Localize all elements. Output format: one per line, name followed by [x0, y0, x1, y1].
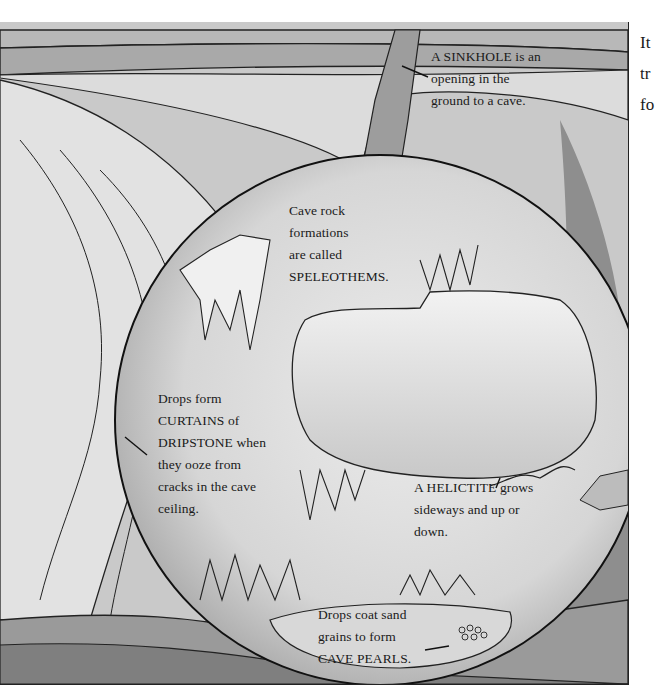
caption-line: are called [289, 244, 389, 266]
caption-line: Drops coat sand [318, 604, 411, 626]
cave-drawing [0, 22, 628, 684]
caption-line: sideways and up or [414, 499, 533, 521]
sinkhole-caption: A SINKHOLE is an opening in the ground t… [431, 46, 541, 112]
caption-line: A SINKHOLE is an [431, 46, 541, 68]
caption-line: Cave rock [289, 200, 389, 222]
caption-line: formations [289, 222, 389, 244]
speleothems-caption: Cave rock formations are called SPELEOTH… [289, 200, 389, 288]
body-text-column: It tr fo [640, 27, 666, 120]
caption-line: SPELEOTHEMS. [289, 266, 389, 288]
body-text-line: fo [640, 89, 666, 120]
caption-line: they ooze from [158, 454, 266, 476]
caption-line: opening in the [431, 68, 541, 90]
body-text-line: tr [640, 58, 666, 89]
body-text-line: It [640, 27, 666, 58]
cave-pearls-caption: Drops coat sand grains to form CAVE PEAR… [318, 604, 411, 670]
caption-line: CURTAINS of [158, 410, 266, 432]
caption-line: down. [414, 521, 533, 543]
caption-line: Drops form [158, 388, 266, 410]
caption-line: ceiling. [158, 498, 266, 520]
helictite-caption: A HELICTITE grows sideways and up or dow… [414, 477, 533, 543]
caption-line: DRIPSTONE when [158, 432, 266, 454]
caption-line: ground to a cave. [431, 90, 541, 112]
dripstone-caption: Drops form CURTAINS of DRIPSTONE when th… [158, 388, 266, 520]
cave-illustration: A SINKHOLE is an opening in the ground t… [0, 22, 629, 685]
caption-line: CAVE PEARLS. [318, 648, 411, 670]
caption-line: cracks in the cave [158, 476, 266, 498]
caption-line: grains to form [318, 626, 411, 648]
caption-line: A HELICTITE grows [414, 477, 533, 499]
